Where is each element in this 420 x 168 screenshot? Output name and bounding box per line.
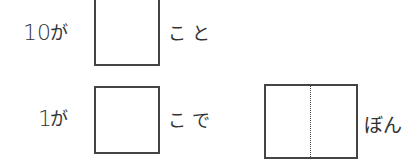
row2-particle: が (50, 110, 68, 128)
row1-suffix: こと (168, 25, 216, 43)
place-value-divider (310, 86, 311, 157)
row1-answer-box[interactable] (94, 0, 160, 66)
result-suffix: ぼん (364, 116, 402, 135)
row2-suffix: こで (168, 112, 216, 130)
result-answer-box[interactable] (264, 84, 358, 159)
row2-answer-box[interactable] (94, 86, 160, 154)
row1-number: 10 (23, 22, 51, 44)
row1-particle: が (50, 24, 68, 42)
